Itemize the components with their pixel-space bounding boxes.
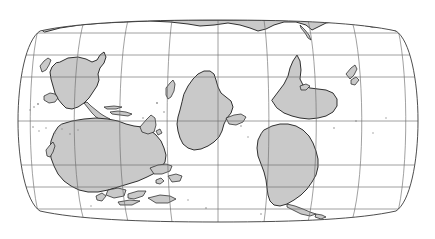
world-map-svg [0, 0, 435, 239]
island-speck [69, 133, 71, 135]
island-speck [32, 126, 34, 128]
island-speck [156, 102, 158, 104]
island-aleutian [37, 103, 39, 105]
island-speck [247, 136, 248, 137]
island-speck [333, 127, 335, 129]
island-speck [187, 199, 188, 200]
island-speck [90, 205, 91, 206]
world-map-figure: World map (south-up orientation) [0, 0, 435, 239]
island-speck [45, 127, 46, 128]
island-speck [77, 129, 78, 130]
island-speck [372, 132, 373, 133]
island-speck [240, 125, 242, 127]
island-speck [61, 128, 62, 129]
island-speck [205, 207, 207, 209]
island-aleutian [33, 106, 35, 108]
island-speck [54, 132, 55, 133]
island-speck [385, 117, 386, 118]
island-speck [38, 130, 39, 131]
island-speck [163, 111, 165, 113]
island-speck [142, 117, 144, 119]
island-speck [260, 213, 262, 215]
